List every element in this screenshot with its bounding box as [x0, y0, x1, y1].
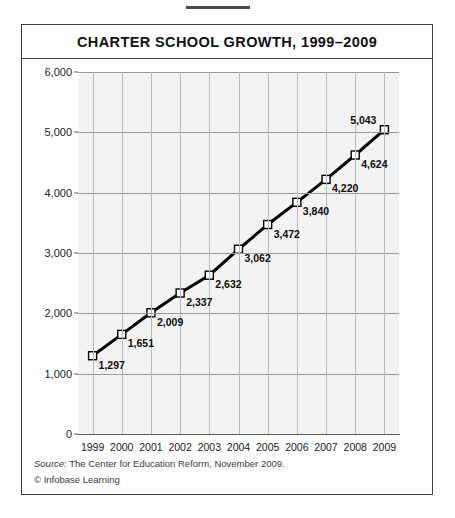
- y-axis-tick-mark: [74, 192, 78, 193]
- source-note: Source: The Center for Education Reform,…: [34, 458, 432, 469]
- x-axis-tick-label: 2005: [256, 441, 279, 453]
- x-axis-line: [78, 434, 400, 435]
- title-band: CHARTER SCHOOL GROWTH, 1999–2009: [22, 25, 432, 59]
- data-point-label: 5,043: [350, 114, 376, 126]
- data-point-label: 3,472: [274, 228, 300, 240]
- y-axis-tick-label: 4,000: [44, 187, 72, 199]
- x-axis-tick-label: 2000: [110, 441, 133, 453]
- x-axis-tick-label: 2003: [198, 441, 221, 453]
- figure-footer: Source: The Center for Education Reform,…: [22, 458, 432, 485]
- x-axis-tick-label: 2006: [285, 441, 308, 453]
- data-point-label: 2,632: [215, 278, 241, 290]
- gridline-vertical: [122, 72, 123, 434]
- plot-wrapper: 01,0002,0003,0004,0005,0006,000199920002…: [22, 59, 434, 454]
- x-axis-tick-label: 1999: [81, 441, 104, 453]
- y-axis-tick-label: 6,000: [44, 66, 72, 78]
- x-axis-tick-label: 2001: [139, 441, 162, 453]
- y-axis-tick-label: 1,000: [44, 368, 72, 380]
- data-point-label: 3,840: [303, 205, 329, 217]
- gridline-vertical: [239, 72, 240, 434]
- figure-frame: CHARTER SCHOOL GROWTH, 1999–2009 01,0002…: [21, 24, 433, 495]
- y-axis-tick-label: 2,000: [44, 307, 72, 319]
- gridline-vertical: [297, 72, 298, 434]
- x-axis-tick-label: 2009: [373, 441, 396, 453]
- gridline-vertical: [180, 72, 181, 434]
- gridline-vertical: [151, 72, 152, 434]
- data-point-label: 4,624: [361, 158, 387, 170]
- plot-area: 01,0002,0003,0004,0005,0006,000199920002…: [78, 72, 399, 434]
- y-axis-tick-mark: [74, 313, 78, 314]
- y-axis-tick-mark: [74, 132, 78, 133]
- y-axis-tick-mark: [74, 253, 78, 254]
- gridline-vertical: [209, 72, 210, 434]
- data-point-label: 3,062: [245, 252, 271, 264]
- x-axis-tick-label: 2008: [344, 441, 367, 453]
- gridline-vertical: [355, 72, 356, 434]
- page-title: CHARTER SCHOOL GROWTH, 1999–2009: [77, 34, 377, 50]
- data-point-label: 2,337: [186, 296, 212, 308]
- y-axis-tick-mark: [74, 434, 78, 435]
- x-axis-tick-label: 2004: [227, 441, 250, 453]
- y-axis-tick-label: 0: [66, 428, 72, 440]
- x-axis-tick-label: 2007: [314, 441, 337, 453]
- y-axis-tick-mark: [74, 72, 78, 73]
- x-axis-tick-label: 2002: [168, 441, 191, 453]
- data-point-label: 1,297: [99, 359, 125, 371]
- gridline-vertical: [326, 72, 327, 434]
- gridline-vertical: [384, 72, 385, 434]
- source-text: The Center for Education Reform, Novembe…: [67, 458, 285, 469]
- top-decorative-rule: [186, 6, 250, 9]
- copyright-note: © Infobase Learning: [34, 474, 432, 485]
- y-axis-tick-label: 3,000: [44, 247, 72, 259]
- data-point-label: 4,220: [332, 182, 358, 194]
- gridline-vertical: [93, 72, 94, 434]
- data-point-label: 1,651: [128, 337, 154, 349]
- source-label: Source:: [34, 458, 67, 469]
- y-axis-tick-label: 5,000: [44, 126, 72, 138]
- data-point-label: 2,009: [157, 316, 183, 328]
- y-axis-tick-mark: [74, 373, 78, 374]
